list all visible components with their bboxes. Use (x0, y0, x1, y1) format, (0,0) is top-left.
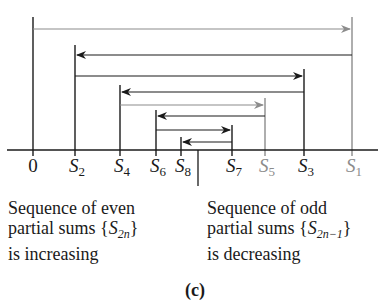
tick-lines (33, 17, 352, 156)
tick-label-s6: S6 (150, 156, 166, 178)
caption-line: is decreasing (207, 244, 351, 264)
tick-label-s2: S2 (69, 156, 85, 178)
caption-line: partial sums {S2n−1} (207, 218, 351, 244)
caption-line: Sequence of odd (207, 198, 351, 218)
tick-label-s8: S8 (175, 156, 191, 178)
figure-label: (c) (185, 280, 205, 301)
tick-label-s7: S7 (226, 156, 242, 178)
caption-odd-sums: Sequence of odd partial sums {S2n−1} is … (207, 198, 351, 264)
tick-label-s4: S4 (114, 156, 130, 178)
caption-line: Sequence of even (8, 198, 138, 218)
caption-line: partial sums {S2n} (8, 218, 138, 244)
tick-label-0: 0 (28, 156, 38, 175)
tick-label-s5: S5 (259, 156, 275, 178)
tick-label-s1: S1 (346, 156, 362, 178)
tick-label-s3: S3 (298, 156, 314, 178)
caption-even-sums: Sequence of even partial sums {S2n} is i… (8, 198, 138, 264)
caption-line: is increasing (8, 244, 138, 264)
